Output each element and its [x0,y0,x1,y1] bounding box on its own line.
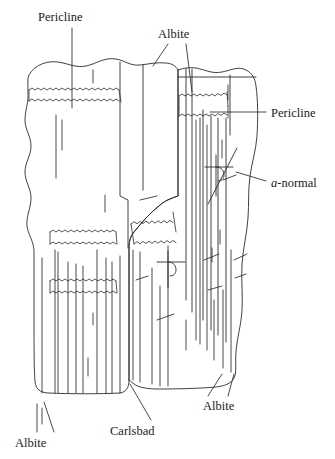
grain-outline-right [129,68,258,389]
leader-albite-bottom-right-b [228,374,234,396]
pericline-patch-upper-left [29,88,121,102]
leader-albite-bottom-left-b [44,402,54,432]
carlsbad-twin-boundary [129,70,178,380]
pericline-patch-left-third [50,279,117,293]
label-a-normal-right: a-normal [271,177,317,190]
label-carlsbad-bottom: Carlsbad [110,425,154,438]
label-pericline-right: Pericline [271,107,315,120]
grain-outline-left [25,59,178,394]
label-albite-bottom-left: Albite [15,437,46,450]
label-albite-top: Albite [158,28,189,41]
leader-albite-bottom-right-a [208,374,222,396]
short-lamella-ticks-left [56,70,105,376]
diagram-canvas [0,0,335,459]
leader-carlsbad [130,384,151,420]
label-pericline-top-left: Pericline [38,11,82,24]
a-normal-symbol-middle [157,251,185,288]
subgrain-boundary-left [120,62,128,248]
albite-lamellae-left-lower [42,250,120,393]
pericline-patch-mid-left [50,230,117,244]
albite-lamellae-middle [133,246,168,386]
leader-a-normal-right [236,172,266,181]
label-albite-bottom-right: Albite [203,400,234,413]
feldspar-twinning-diagram: Pericline Albite Pericline a-normal Albi… [0,0,335,459]
a-normal-symbol-right [205,148,237,204]
a-normal-rest: -normal [277,176,317,190]
